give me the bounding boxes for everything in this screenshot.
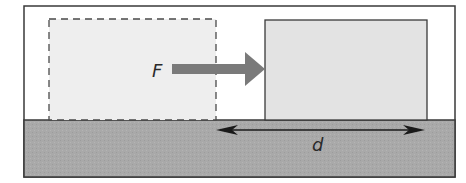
force-label: F [152,60,163,81]
displacement-label: d [312,134,324,155]
final-block-position [265,20,427,120]
ground-surface [24,120,455,177]
work-diagram: F d [0,0,466,183]
